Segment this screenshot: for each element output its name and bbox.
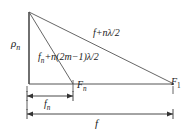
label-dimension-fn-sub: n <box>47 104 51 112</box>
fresnel-zone-diagram <box>0 0 188 135</box>
dim-arrow-fn-right <box>67 93 73 98</box>
label-hypotenuse-text: f+nλ/2 <box>93 27 120 38</box>
label-dimension-f: f <box>95 118 98 129</box>
label-hypotenuse-length: f+nλ/2 <box>93 28 120 38</box>
label-inner-ray-length: fn+n(2m−1)λ/2 <box>38 52 99 62</box>
label-dimension-fn: fn <box>44 99 50 109</box>
label-point-Fn: Fn <box>77 80 87 90</box>
dim-arrow-fn-left <box>27 93 33 98</box>
label-point-F1: F1 <box>171 77 181 87</box>
label-dimension-f-base: f <box>95 117 98 129</box>
label-point-F1-sub: 1 <box>177 82 181 90</box>
label-rho-n: ρn <box>11 38 20 49</box>
label-rho-n-sub: n <box>16 43 20 52</box>
dim-arrow-f-left <box>27 111 33 116</box>
label-inner-ray-text: +n(2m−1)λ/2 <box>44 51 99 62</box>
dim-arrow-f-right <box>167 111 173 116</box>
label-point-Fn-sub: n <box>83 85 87 93</box>
